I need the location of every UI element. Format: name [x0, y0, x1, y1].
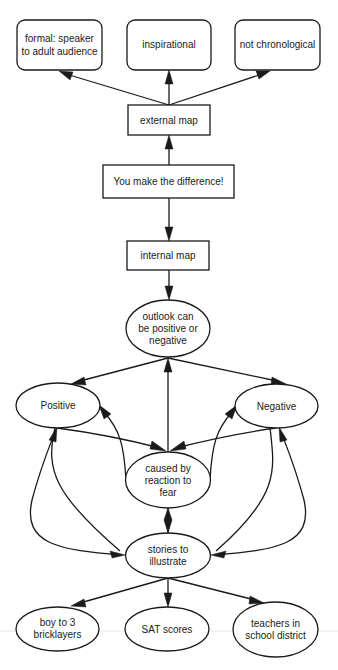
edge-negative-to-stories: [216, 428, 273, 551]
arrowhead-icon: [164, 593, 172, 607]
concept-map-diagram: formal: speaker to adult audience inspir…: [0, 0, 338, 670]
arrowhead-icon: [99, 405, 111, 419]
svg-text:school district: school district: [245, 630, 306, 641]
edge-stories-to-negative: [214, 437, 306, 555]
svg-text:outlook can: outlook can: [142, 311, 193, 322]
node-formal: formal: speaker to adult audience: [17, 20, 102, 70]
svg-text:reaction to: reaction to: [145, 475, 192, 486]
svg-text:formal: speaker: formal: speaker: [25, 33, 95, 44]
svg-text:fear: fear: [159, 487, 177, 498]
node-external-map: external map: [128, 105, 210, 135]
edge-negative-to-caused: [176, 428, 276, 448]
svg-text:inspirational: inspirational: [142, 39, 195, 50]
arrowhead-icon: [279, 427, 287, 442]
svg-text:SAT scores: SAT scores: [142, 624, 193, 635]
arrowhead-icon: [110, 551, 125, 558]
node-boy-to-3-bricklayers: boy to 3 bricklayers: [16, 607, 99, 651]
node-stories-to-illustrate: stories to illustrate: [126, 533, 211, 578]
arrowhead-icon: [170, 441, 186, 451]
edge-stories-to-teachers: [168, 578, 255, 600]
svg-text:boy to 3: boy to 3: [40, 617, 76, 628]
node-teachers-in-school-district: teachers in school district: [233, 602, 318, 657]
svg-text:caused by: caused by: [145, 463, 191, 474]
node-sat-scores: SAT scores: [125, 607, 209, 651]
edge-outlook-to-positive: [80, 358, 168, 381]
node-not-chronological: not chronological: [235, 20, 320, 70]
svg-text:not chronological: not chronological: [240, 39, 316, 50]
node-positive: Positive: [16, 383, 100, 428]
edge-caused-to-negative: [210, 412, 232, 480]
double-arrowhead-icon: [164, 508, 172, 533]
edge-external-to-formal: [66, 74, 169, 105]
svg-text:external map: external map: [140, 115, 198, 126]
svg-text:teachers in: teachers in: [251, 618, 300, 629]
edge-outlook-to-negative: [168, 358, 277, 381]
svg-text:bricklayers: bricklayers: [34, 629, 82, 640]
svg-text:to adult audience: to adult audience: [21, 46, 98, 57]
edge-external-to-not-chronological: [169, 74, 262, 105]
svg-text:illustrate: illustrate: [149, 556, 187, 567]
arrowhead-icon: [71, 599, 86, 607]
node-caused-by-fear: caused by reaction to fear: [126, 452, 211, 508]
arrowhead-icon: [165, 286, 173, 300]
arrowhead-icon: [59, 71, 73, 80]
arrowhead-icon: [256, 71, 270, 79]
node-negative: Negative: [235, 384, 318, 428]
edge-stories-to-boy: [80, 578, 168, 603]
svg-text:negative: negative: [149, 335, 187, 346]
arrowhead-icon: [211, 551, 226, 558]
arrowhead-icon: [165, 227, 173, 241]
arrowhead-icon: [164, 358, 172, 372]
svg-text:You make the difference!: You make the difference!: [113, 176, 223, 187]
arrowhead-icon: [150, 441, 166, 451]
node-you-make-the-difference: You make the difference!: [103, 165, 234, 198]
arrowhead-icon: [165, 135, 173, 149]
node-inspirational: inspirational: [127, 20, 211, 70]
svg-text:internal map: internal map: [140, 250, 195, 261]
svg-text:be positive or: be positive or: [138, 323, 198, 334]
edge-caused-to-positive: [104, 412, 126, 480]
node-internal-map: internal map: [127, 241, 209, 270]
edge-positive-to-stories: [52, 428, 120, 551]
arrowhead-icon: [165, 70, 173, 84]
svg-text:Positive: Positive: [40, 400, 75, 411]
edge-stories-to-positive: [30, 437, 122, 555]
svg-text:stories to: stories to: [148, 544, 189, 555]
edge-positive-to-caused: [57, 428, 160, 448]
svg-text:Negative: Negative: [257, 401, 297, 412]
node-outlook: outlook can be positive or negative: [126, 300, 210, 357]
